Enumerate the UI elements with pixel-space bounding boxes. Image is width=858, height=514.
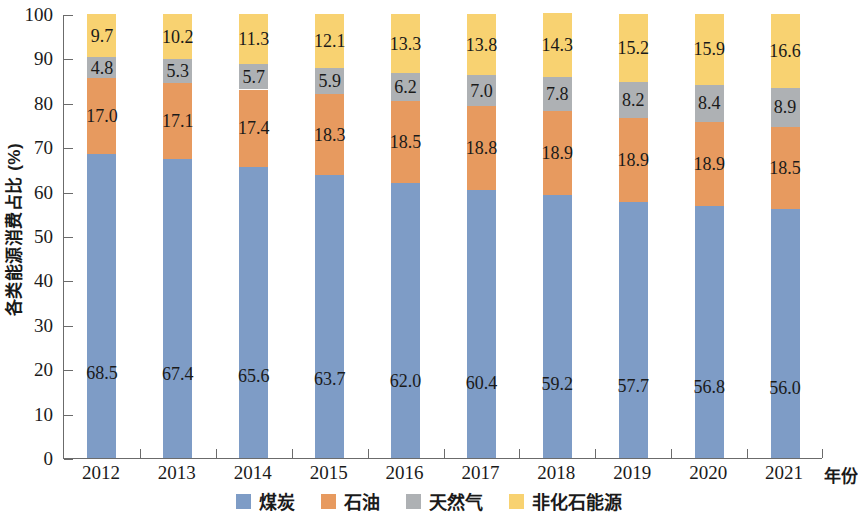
x-axis-tick [292,449,293,458]
bar-stack[interactable]: 60.418.87.013.8 [467,14,496,458]
bar-segment[interactable] [467,190,496,458]
y-axis-tick [64,193,73,194]
plot-area: 68.517.04.89.767.417.15.310.265.617.45.7… [63,15,822,459]
bar-stack[interactable]: 63.718.35.912.1 [315,14,344,458]
bar-value-label: 18.9 [530,144,585,162]
bar-value-label: 13.3 [378,35,433,53]
x-axis-tick-label: 2021 [765,462,803,484]
bar-value-label: 5.9 [302,72,357,90]
x-axis-tick-label: 2019 [613,462,651,484]
bar-stack[interactable]: 56.018.58.916.6 [771,14,800,458]
bar-value-label: 11.3 [226,30,281,48]
bar-stack[interactable]: 56.818.98.415.9 [695,14,724,458]
bar-value-label: 17.4 [226,119,281,137]
chart-legend: 煤炭石油天然气非化石能源 [0,488,857,514]
x-axis-tick [140,449,141,458]
bar-value-label: 56.0 [758,379,813,397]
y-axis-tick-label: 0 [44,448,54,470]
bar-value-label: 62.0 [378,372,433,390]
bar-value-label: 18.5 [378,133,433,151]
bar-stack[interactable]: 57.718.98.215.2 [619,14,648,458]
legend-swatch [236,494,251,509]
legend-swatch [321,494,336,509]
y-axis-tick [64,148,73,149]
y-axis-tick [64,415,73,416]
y-axis-tick-label: 30 [34,315,53,337]
bar-value-label: 13.8 [454,36,509,54]
bar-segment[interactable] [87,154,116,458]
legend-item[interactable]: 非化石能源 [509,488,622,514]
x-axis-tick-label: 2016 [386,462,424,484]
bar-value-label: 12.1 [302,32,357,50]
bar-value-label: 5.3 [150,62,205,80]
y-axis-tick [64,326,73,327]
bar-stack[interactable]: 62.018.56.213.3 [391,14,420,458]
x-axis-tick [747,449,748,458]
legend-label: 煤炭 [259,488,295,514]
x-axis-tick [822,449,823,458]
y-axis-tick [64,59,73,60]
bar-value-label: 7.0 [454,82,509,100]
x-axis-tick-label: 2014 [234,462,272,484]
x-axis-tick [444,449,445,458]
bar-stack[interactable]: 65.617.45.711.3 [239,14,268,458]
bar-stack[interactable]: 59.218.97.814.3 [543,14,572,458]
bar-segment[interactable] [695,206,724,458]
legend-label: 石油 [344,488,380,514]
legend-item[interactable]: 石油 [321,488,380,514]
legend-swatch [509,494,524,509]
legend-swatch [406,494,421,509]
legend-item[interactable]: 天然气 [406,488,483,514]
x-axis-tick [519,449,520,458]
bar-segment[interactable] [391,183,420,458]
y-axis-tick [64,104,73,105]
bar-value-label: 65.6 [226,367,281,385]
legend-label: 天然气 [429,488,483,514]
y-axis-tick [64,15,73,16]
x-axis-tick-label: 2020 [689,462,727,484]
bar-value-label: 6.2 [378,78,433,96]
y-axis-tick-labels: 0102030405060708090100 [0,15,58,459]
bar-value-label: 7.8 [530,85,585,103]
bar-value-label: 60.4 [454,374,509,392]
x-axis-tick-label: 2015 [310,462,348,484]
bar-stack[interactable]: 67.417.15.310.2 [163,14,192,458]
bar-value-label: 59.2 [530,375,585,393]
x-axis-tick [216,449,217,458]
bar-value-label: 18.3 [302,126,357,144]
bar-value-label: 8.2 [606,91,661,109]
x-axis-tick-labels: 2012201320142015201620172018201920202021 [63,462,822,490]
bar-value-label: 4.8 [74,59,129,77]
bar-segment[interactable] [239,167,268,458]
y-axis-tick [64,370,73,371]
bar-value-label: 57.7 [606,377,661,395]
bar-value-label: 67.4 [150,365,205,383]
bar-value-label: 17.1 [150,112,205,130]
x-axis-tick-label: 2017 [461,462,499,484]
y-axis-tick [64,459,73,460]
bar-segment[interactable] [771,209,800,458]
bar-value-label: 15.2 [606,39,661,57]
legend-label: 非化石能源 [532,488,622,514]
x-axis-title: 年份 [824,462,858,487]
bar-stack[interactable]: 68.517.04.89.7 [87,14,116,458]
bar-value-label: 18.8 [454,139,509,157]
legend-item[interactable]: 煤炭 [236,488,295,514]
bar-value-label: 18.9 [606,151,661,169]
bar-value-label: 17.0 [74,107,129,125]
bar-value-label: 14.3 [530,36,585,54]
bar-value-label: 5.7 [226,68,281,86]
bar-segment[interactable] [543,195,572,458]
x-axis-tick [368,449,369,458]
bar-segment[interactable] [163,159,192,458]
bar-segment[interactable] [619,202,648,458]
bar-segment[interactable] [315,175,344,458]
x-axis-tick [671,449,672,458]
bar-value-label: 10.2 [150,28,205,46]
y-axis-tick-label: 40 [34,270,53,292]
y-axis-tick [64,281,73,282]
y-axis-tick-label: 60 [34,182,53,204]
bar-value-label: 16.6 [758,42,813,60]
x-axis-tick-label: 2018 [537,462,575,484]
